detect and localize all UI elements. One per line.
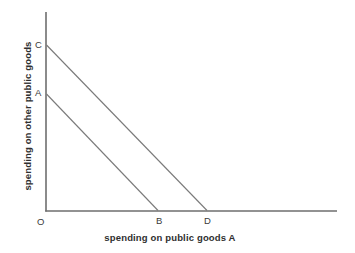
point-label-a: A xyxy=(35,88,42,98)
point-label-origin: O xyxy=(37,217,45,227)
budget-line-cd xyxy=(47,45,208,211)
budget-line-ab xyxy=(47,94,159,211)
plot-canvas xyxy=(0,0,355,253)
x-axis-title: spending on public goods A xyxy=(0,232,340,243)
budget-line-figure: C A O B D spending on public goods A spe… xyxy=(0,0,355,253)
point-label-c: C xyxy=(35,40,42,50)
y-axis-title: spending on other public goods xyxy=(22,41,33,190)
point-label-d: D xyxy=(204,216,211,226)
y-axis-title-container: spending on other public goods xyxy=(17,26,33,206)
point-label-b: B xyxy=(156,216,163,226)
